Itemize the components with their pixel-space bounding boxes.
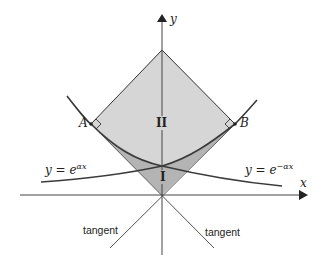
region-II-label: II (155, 116, 168, 130)
tangent-left-label: tangent (83, 224, 118, 236)
curve-left-base: y = e (45, 163, 77, 177)
curve-left-exponent: αx (77, 162, 87, 171)
y-axis-arrow-icon (157, 14, 167, 22)
curve-right-exponent: −αx (277, 162, 294, 171)
x-axis-label: x (300, 176, 307, 190)
point-B-label: B (240, 116, 249, 130)
curve-left-equation: y = eαx (45, 162, 87, 177)
curve-right-equation: y = e−αx (245, 162, 293, 177)
curve-right-base: y = e (245, 163, 277, 177)
y-axis-label: y (170, 12, 177, 26)
tangent-right-label: tangent (205, 226, 240, 238)
region-I-label: I (159, 170, 167, 184)
diagram-canvas (0, 0, 322, 269)
point-B-dot (233, 122, 237, 126)
point-A-dot (89, 122, 93, 126)
point-A-label: A (79, 116, 88, 130)
x-axis-arrow-icon (299, 190, 308, 200)
